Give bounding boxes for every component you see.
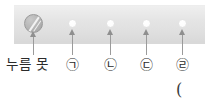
marker-dot-4 (178, 19, 187, 28)
pointer-head-2 (107, 29, 113, 35)
marker-label-4: ㉣ (176, 58, 189, 71)
pointer-head-1 (69, 29, 75, 35)
trailing-parenthesis: ( (176, 80, 182, 99)
marker-dot-3 (142, 19, 151, 28)
pointer-head-4 (179, 29, 185, 35)
marker-label-1: ㉠ (66, 58, 79, 71)
marker-label-2: ㉡ (104, 58, 117, 71)
marker-label-3: ㉢ (140, 58, 153, 71)
marker-dot-1 (68, 19, 77, 28)
pointer-head-3 (143, 29, 149, 35)
marker-dot-2 (106, 19, 115, 28)
science-diagram-figure: 누름 못 ㉠ ㉡ ㉢ ㉣ ( (0, 0, 212, 102)
label-thumbtack: 누름 못 (6, 58, 48, 72)
pointer-head-tack (30, 31, 36, 37)
